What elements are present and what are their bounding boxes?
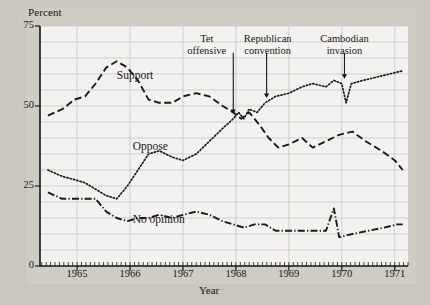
- annotation-line-1: Cambodian: [320, 33, 368, 44]
- x-tick-label: 1965: [55, 268, 99, 279]
- annotation-line-2: invasion: [284, 45, 404, 57]
- x-tick-label: 1970: [320, 268, 364, 279]
- x-tick-label: 1966: [108, 268, 152, 279]
- annotation-cambodian-invasion: Cambodianinvasion: [284, 33, 404, 57]
- x-axis-title: Year: [199, 284, 219, 296]
- cut-off-caption: [150, 296, 430, 305]
- y-tick-label: 0: [8, 259, 34, 270]
- series-label-support: Support: [117, 69, 153, 81]
- chart-page: Percent Year 0255075 1965196619671968196…: [0, 0, 430, 305]
- chart-canvas: [40, 26, 408, 266]
- x-tick-label: 1967: [161, 268, 205, 279]
- y-tick-label: 50: [8, 99, 34, 110]
- x-tick-label: 1968: [214, 268, 258, 279]
- y-axis-title: Percent: [28, 6, 62, 18]
- y-tick-label: 25: [8, 179, 34, 190]
- series-label-no-opinion: No opinion: [133, 213, 185, 225]
- x-tick-label: 1971: [373, 268, 417, 279]
- series-label-oppose: Oppose: [133, 140, 168, 152]
- y-tick-label: 75: [8, 19, 34, 30]
- plot-area: [40, 26, 408, 266]
- x-tick-label: 1969: [267, 268, 311, 279]
